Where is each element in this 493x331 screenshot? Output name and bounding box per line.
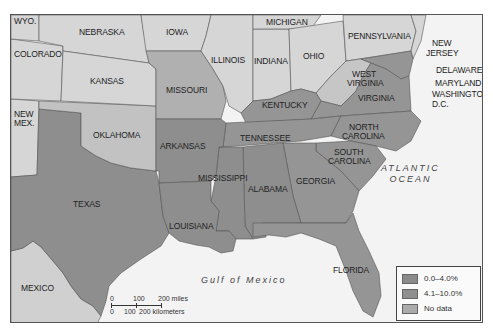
label-indiana: INDIANA — [254, 57, 288, 66]
label-delaware: DELAWARE — [436, 66, 482, 75]
label-virginia: VIRGINIA — [358, 94, 395, 103]
scale-miles-0: 0 — [110, 295, 114, 302]
label-ohio: OHIO — [303, 52, 324, 61]
scale-tick — [136, 303, 137, 308]
legend-label-low: 0.0–4.0% — [424, 274, 458, 283]
label-atlantic-1: ATLANTIC — [381, 163, 440, 174]
label-arkansas: ARKANSAS — [160, 142, 206, 151]
label-tennessee: TENNESSEE — [240, 134, 291, 143]
label-iowa: IOWA — [166, 28, 188, 37]
label-wyo: WYO. — [14, 17, 36, 26]
label-oklahoma: OKLAHOMA — [93, 131, 140, 140]
label-new-mex-2: MEX. — [14, 119, 34, 128]
legend-item-low: 0.0–4.0% — [402, 271, 475, 286]
label-kentucky: KENTUCKY — [262, 101, 308, 110]
label-nebraska: NEBRASKA — [79, 28, 125, 37]
legend: 0.0–4.0% 4.1–10.0% No data — [396, 266, 481, 321]
label-atlantic-ocean: ATLANTIC OCEAN — [381, 163, 440, 185]
label-alabama: ALABAMA — [248, 185, 287, 194]
label-illinois: ILLINOIS — [211, 56, 245, 65]
label-maryland: MARYLAND — [435, 79, 481, 88]
label-florida: FLORIDA — [333, 266, 369, 275]
label-washington-dc-2: D.C. — [432, 100, 449, 109]
label-new-jersey-1: NEW — [432, 39, 452, 48]
label-texas: TEXAS — [73, 200, 100, 209]
scale-miles-200: 200 miles — [158, 295, 188, 302]
label-michigan: MICHIGAN — [266, 18, 308, 27]
scale-km-100: 100 — [124, 308, 136, 315]
label-atlantic-2: OCEAN — [381, 174, 440, 185]
label-colorado: COLORADO — [14, 50, 62, 59]
scale-bar: 0 100 200 miles 0 100 200 kilometers — [108, 295, 208, 320]
label-pennsylvania: PENNSYLVANIA — [348, 32, 411, 41]
label-mexico: MEXICO — [21, 284, 54, 293]
label-georgia: GEORGIA — [296, 177, 335, 186]
label-kansas: KANSAS — [90, 77, 124, 86]
scale-km-200: 200 kilometers — [139, 308, 185, 315]
legend-item-nodata: No data — [402, 301, 475, 316]
label-mississippi: MISSISSIPPI — [198, 174, 247, 183]
label-gulf-of-mexico: Gulf of Mexico — [201, 275, 287, 286]
scale-km-0: 0 — [110, 308, 114, 315]
label-new-jersey-2: JERSEY — [426, 49, 458, 58]
scale-miles-100: 100 — [133, 295, 145, 302]
legend-swatch-nodata — [402, 304, 418, 314]
label-north-carolina-2: CAROLINA — [342, 132, 385, 141]
label-west-virginia-2: VIRGINIA — [347, 79, 384, 88]
legend-label-nodata: No data — [424, 304, 452, 313]
label-washington-dc-1: WASHINGTON, — [432, 90, 483, 99]
legend-swatch-low — [402, 274, 418, 284]
legend-item-mid: 4.1–10.0% — [402, 286, 475, 301]
legend-swatch-mid — [402, 289, 418, 299]
label-missouri: MISSOURI — [166, 86, 207, 95]
legend-label-mid: 4.1–10.0% — [424, 289, 462, 298]
label-louisiana: LOUISIANA — [169, 222, 213, 231]
label-south-carolina-2: CAROLINA — [328, 157, 371, 166]
